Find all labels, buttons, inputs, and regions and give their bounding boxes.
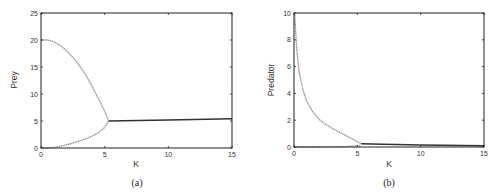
x-tick-label: 10 (164, 151, 172, 158)
ticks-a: 0510150510152025 (30, 10, 236, 159)
branch-curve (41, 121, 108, 148)
prey-curves (41, 40, 232, 148)
y-tick-label: 8 (287, 36, 291, 43)
y-tick-label: 20 (30, 37, 38, 44)
x-tick-label: 10 (417, 150, 425, 157)
y-tick-label: 5 (34, 118, 38, 125)
x-tick-label: 15 (480, 150, 488, 157)
y-tick-label: 6 (287, 63, 291, 70)
y-tick-label: 0 (287, 144, 291, 151)
y-tick-label: 2 (287, 117, 291, 124)
figure: 0510150510152025 K Prey (a) 051015024681… (0, 0, 500, 196)
caption-a: (a) (131, 177, 142, 189)
plot-frame-a (41, 13, 232, 148)
x-tick-label: 15 (228, 151, 236, 158)
x-tick-label: 0 (292, 150, 296, 157)
y-tick-label: 25 (30, 10, 38, 17)
branch-curve (41, 40, 108, 120)
ticks-b: 0510150246810 (283, 10, 488, 158)
y-tick-label: 10 (283, 10, 291, 17)
panel-a: 0510150510152025 K Prey (a) (9, 10, 236, 190)
panel-b: 0510150246810 K Predator (b) (266, 10, 488, 190)
plot-frame-b (294, 13, 484, 147)
x-tick-label: 0 (39, 151, 43, 158)
y-tick-label: 4 (287, 90, 291, 97)
predator-curves (294, 13, 484, 147)
equilibrium-line (361, 144, 484, 146)
x-tick-label: 5 (355, 150, 359, 157)
ylabel-a: Prey (9, 71, 19, 89)
equilibrium-line (108, 119, 232, 121)
branch-curve (295, 13, 362, 144)
y-tick-label: 15 (30, 64, 38, 71)
x-tick-label: 5 (103, 151, 107, 158)
xlabel-a: K (133, 159, 139, 169)
xlabel-b: K (386, 159, 392, 169)
ylabel-b: Predator (266, 64, 276, 97)
y-tick-label: 0 (34, 145, 38, 152)
y-tick-label: 10 (30, 91, 38, 98)
caption-b: (b) (383, 177, 395, 189)
